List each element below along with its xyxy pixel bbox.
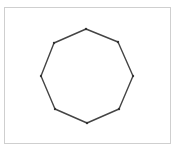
vertex-right — [132, 75, 134, 77]
vertex-top — [85, 28, 87, 30]
vertex-bottom-left — [54, 108, 56, 110]
vertex-markers — [40, 28, 134, 124]
vertex-bottom — [86, 122, 88, 124]
vertex-left — [40, 75, 42, 77]
vertex-top-left — [53, 42, 55, 44]
octagon-diagram — [0, 0, 179, 148]
vertex-top-right — [117, 41, 119, 43]
vertex-bottom-right — [118, 108, 120, 110]
